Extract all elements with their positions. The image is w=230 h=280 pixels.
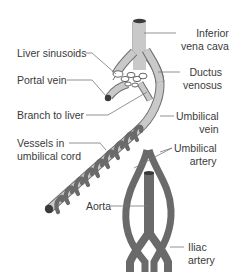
label-ductus-venosus: Ductus venosus — [183, 66, 222, 92]
label-inferior-vena-cava: Inferior vena cava — [181, 27, 229, 53]
label-portal-vein: Portal vein — [17, 74, 67, 87]
fetal-circulation-diagram: Inferior vena cava Liver sinusoids Ductu… — [0, 0, 230, 280]
label-liver-sinusoids: Liver sinusoids — [17, 47, 86, 60]
label-umbilical-artery: Umbilical artery — [174, 142, 217, 168]
label-vessels-in-umbilical-cord: Vessels in umbilical cord — [17, 137, 81, 163]
label-branch-to-liver: Branch to liver — [17, 109, 84, 122]
label-iliac-artery: Iliac artery — [188, 241, 215, 267]
label-umbilical-vein: Umbilical vein — [176, 110, 219, 136]
label-aorta: Aorta — [86, 200, 111, 213]
